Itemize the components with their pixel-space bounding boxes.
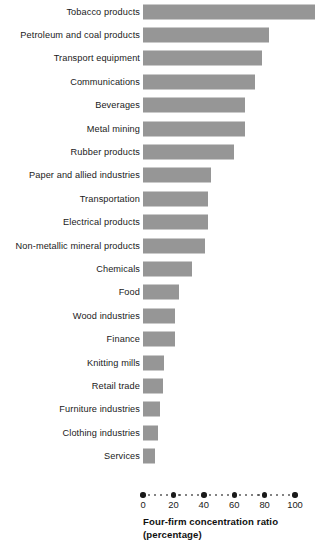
bar-track — [143, 449, 333, 464]
chart-plot-area: Tobacco productsPetroleum and coal produ… — [0, 0, 333, 487]
bar-track — [143, 74, 333, 89]
bar-row: Transport equipment — [0, 47, 333, 70]
axis-minor-tick-dot — [191, 494, 193, 496]
bar-fill — [143, 425, 158, 440]
bar-category-label: Metal mining — [0, 124, 140, 134]
bar-category-label: Beverages — [0, 100, 140, 110]
bar-row: Retail trade — [0, 374, 333, 397]
bar-fill — [143, 168, 211, 183]
bar-track — [143, 355, 333, 370]
bar-fill — [143, 51, 262, 66]
axis-major-tick-dot — [262, 492, 267, 497]
axis-minor-tick-dot — [209, 494, 211, 496]
bar-track — [143, 191, 333, 206]
bar-fill — [143, 449, 155, 464]
bar-fill — [143, 238, 205, 253]
bar-category-label: Communications — [0, 77, 140, 87]
axis-tick-label: 40 — [199, 498, 209, 511]
bar-track — [143, 238, 333, 253]
bar-fill — [143, 74, 255, 89]
axis-minor-tick-dot — [239, 494, 241, 496]
bar-fill — [143, 308, 175, 323]
bar-row: Clothing industries — [0, 421, 333, 444]
bar-category-label: Paper and allied industries — [0, 170, 140, 180]
axis-major-tick-dot — [171, 492, 176, 497]
bar-category-label: Wood industries — [0, 311, 140, 321]
bar-row: Metal mining — [0, 117, 333, 140]
bar-chart: Tobacco productsPetroleum and coal produ… — [0, 0, 333, 553]
bar-row: Finance — [0, 327, 333, 350]
bar-category-label: Furniture industries — [0, 404, 140, 414]
bar-category-label: Clothing industries — [0, 428, 140, 438]
axis-minor-tick-dot — [288, 494, 290, 496]
bar-category-label: Services — [0, 451, 140, 461]
bar-category-label: Tobacco products — [0, 7, 140, 17]
axis-minor-tick-dot — [221, 494, 223, 496]
bar-track — [143, 28, 333, 43]
axis-tick-label: 80 — [259, 498, 269, 511]
bar-category-label: Transportation — [0, 194, 140, 204]
axis-major-tick-dot — [201, 492, 206, 497]
axis-tick-label: 0 — [140, 498, 145, 511]
bar-category-label: Retail trade — [0, 381, 140, 391]
bar-fill — [143, 285, 179, 300]
bar-row: Rubber products — [0, 140, 333, 163]
bar-category-label: Petroleum and coal products — [0, 30, 140, 40]
axis-tick-labels: 020406080100 — [143, 498, 303, 512]
bar-category-label: Transport equipment — [0, 53, 140, 63]
axis-minor-tick-dot — [154, 494, 156, 496]
bar-row: Knitting mills — [0, 351, 333, 374]
axis-minor-tick-dot — [282, 494, 284, 496]
bar-row: Non-metallic mineral products — [0, 234, 333, 257]
axis-major-tick-dot — [140, 492, 145, 497]
axis-minor-tick-dot — [185, 494, 187, 496]
bar-track — [143, 98, 333, 113]
axis-title-line-1: Four-firm concentration ratio — [143, 516, 333, 529]
bar-row: Paper and allied industries — [0, 164, 333, 187]
bar-row: Services — [0, 444, 333, 467]
bar-fill — [143, 215, 208, 230]
bar-track — [143, 402, 333, 417]
axis-major-tick-dot — [292, 492, 297, 497]
axis-minor-tick-dot — [197, 494, 199, 496]
axis-title-line-2: (percentage) — [143, 529, 333, 542]
bar-fill — [143, 191, 208, 206]
axis-tick-label: 100 — [287, 498, 303, 511]
bar-row: Beverages — [0, 94, 333, 117]
axis-minor-tick-dot — [270, 494, 272, 496]
bar-category-label: Food — [0, 287, 140, 297]
bar-row: Food — [0, 281, 333, 304]
bar-track — [143, 308, 333, 323]
bar-fill — [143, 332, 175, 347]
bar-track — [143, 261, 333, 276]
axis-minor-tick-dot — [166, 494, 168, 496]
bar-row: Wood industries — [0, 304, 333, 327]
bar-category-label: Electrical products — [0, 217, 140, 227]
bar-category-label: Rubber products — [0, 147, 140, 157]
axis-minor-tick-dot — [276, 494, 278, 496]
bar-track — [143, 145, 333, 160]
bar-row: Furniture industries — [0, 398, 333, 421]
bar-row: Transportation — [0, 187, 333, 210]
axis-minor-tick-dot — [227, 494, 229, 496]
bar-fill — [143, 402, 160, 417]
bar-row: Communications — [0, 70, 333, 93]
axis-minor-tick-dot — [160, 494, 162, 496]
bar-row: Chemicals — [0, 257, 333, 280]
bar-track — [143, 121, 333, 136]
bar-fill — [143, 355, 164, 370]
bar-fill — [143, 145, 234, 160]
axis-minor-tick-dot — [245, 494, 247, 496]
axis-minor-tick-dot — [257, 494, 259, 496]
bar-row: Tobacco products — [0, 0, 333, 23]
bar-row: Petroleum and coal products — [0, 23, 333, 46]
bar-category-label: Knitting mills — [0, 358, 140, 368]
bar-track — [143, 332, 333, 347]
bar-fill — [143, 4, 315, 19]
bar-track — [143, 378, 333, 393]
axis-minor-tick-dot — [178, 494, 180, 496]
axis-major-tick-dot — [232, 492, 237, 497]
bar-fill — [143, 261, 192, 276]
bar-track — [143, 425, 333, 440]
axis-minor-tick-dot — [215, 494, 217, 496]
